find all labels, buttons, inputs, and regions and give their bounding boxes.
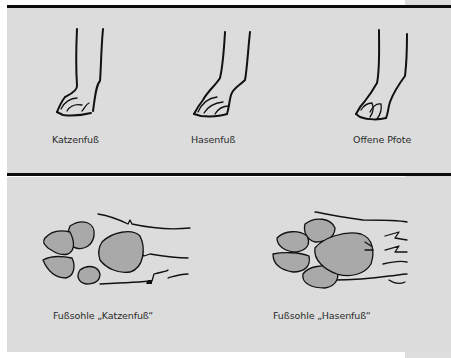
top-divider <box>7 5 451 8</box>
open-paw-icon <box>355 28 410 123</box>
hare-foot-icon <box>193 30 253 120</box>
label-cat-foot: Katzenfuß <box>52 134 99 145</box>
label-hare-foot: Hasenfuß <box>191 134 235 145</box>
cat-foot-sole-icon <box>40 208 200 288</box>
cat-foot-icon <box>55 25 105 120</box>
label-hare-foot-sole: Fußsohle „Hasenfuß“ <box>273 310 370 321</box>
label-cat-foot-sole: Fußsohle „Katzenfuß“ <box>53 310 153 321</box>
label-open-paw: Offene Pfote <box>353 134 411 145</box>
hare-foot-sole-icon <box>265 208 415 288</box>
middle-divider <box>7 173 451 176</box>
